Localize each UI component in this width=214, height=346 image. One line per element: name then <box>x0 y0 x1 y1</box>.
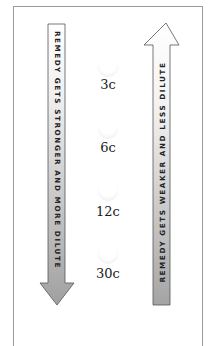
potency-label-30c: 30c <box>88 266 128 281</box>
pill-6c-icon <box>98 118 118 138</box>
right-arrow-label: REMEDY GETS WEAKER AND LESS DILUTE <box>157 61 166 282</box>
potency-label-3c: 3c <box>88 77 128 92</box>
potency-label-12c: 12c <box>88 204 128 219</box>
pill-3c-icon <box>98 56 118 76</box>
left-arrow-label: REMEDY GETS STRONGER AND MORE DILUTE <box>52 31 61 269</box>
pill-30c-icon <box>98 243 118 263</box>
pill-12c-icon <box>98 180 118 200</box>
potency-label-6c: 6c <box>88 140 128 155</box>
